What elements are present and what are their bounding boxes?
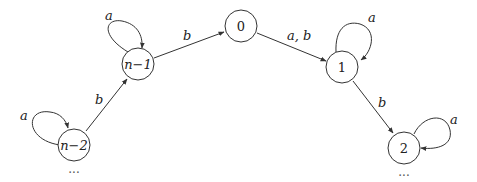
- label-edge-n-2-n-1: b: [95, 92, 103, 107]
- state-label-1: 1: [338, 60, 346, 75]
- label-edge-n-1-0: b: [183, 28, 191, 43]
- label-edge-0-1: a, b: [287, 28, 311, 43]
- label-loop-n-1: a: [105, 8, 113, 23]
- state-n-2: n−2: [58, 129, 90, 161]
- label-edge-1-2: b: [378, 95, 386, 110]
- state-0: 0: [225, 10, 257, 42]
- state-label-n-1: n−1: [124, 57, 152, 72]
- continuation-left: ···: [68, 166, 79, 180]
- state-n-1: n−1: [122, 48, 154, 80]
- automaton-diagram: b a a b a, b a b a n−2 n−1 0 1 2 ··· ···: [0, 0, 477, 182]
- state-1: 1: [326, 51, 358, 83]
- continuation-right: ···: [398, 169, 409, 182]
- state-label-0: 0: [237, 19, 245, 34]
- state-label-2: 2: [400, 141, 408, 156]
- label-loop-1: a: [368, 10, 376, 25]
- label-loop-2: a: [450, 112, 458, 127]
- edge-1-2: [353, 81, 393, 133]
- edge-n-2-n-1: [86, 79, 127, 131]
- state-2: 2: [388, 132, 420, 164]
- state-label-n-2: n−2: [60, 138, 88, 153]
- label-loop-n-2: a: [20, 108, 28, 123]
- loop-n-1: [108, 21, 142, 52]
